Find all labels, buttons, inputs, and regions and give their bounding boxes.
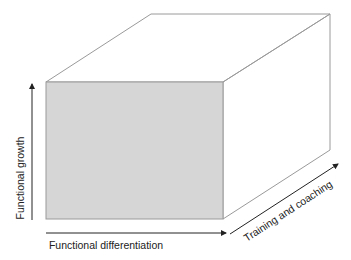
depth-axis-label: Training and coaching bbox=[241, 177, 334, 243]
cube-top-face bbox=[46, 14, 330, 82]
cube-diagram: Functional growth Functional differentia… bbox=[0, 0, 351, 260]
vertical-axis-label: Functional growth bbox=[14, 136, 26, 219]
depth-axis-arrow bbox=[230, 164, 338, 234]
cube-front-face bbox=[46, 82, 223, 219]
horizontal-axis-label: Functional differentiation bbox=[49, 239, 163, 251]
